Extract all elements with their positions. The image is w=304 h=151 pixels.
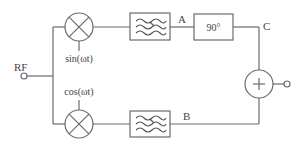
phase-shifter-label: 90° bbox=[207, 22, 221, 33]
filter-top bbox=[130, 13, 170, 40]
filter-bottom bbox=[130, 111, 170, 137]
rf-label: RF bbox=[14, 61, 27, 73]
node-a-label: A bbox=[178, 13, 186, 25]
image-reject-receiver-diagram: RF sin(ωt) cos(ωt) bbox=[0, 0, 304, 151]
rf-input: RF bbox=[14, 61, 53, 79]
mixer-top: sin(ωt) bbox=[65, 13, 93, 65]
lo-label-sin: sin(ωt) bbox=[65, 53, 93, 65]
mixer-bottom: cos(ωt) bbox=[64, 86, 93, 138]
summer bbox=[245, 70, 273, 98]
input-port-icon bbox=[21, 73, 27, 79]
lo-label-cos: cos(ωt) bbox=[64, 86, 93, 98]
node-c-label: C bbox=[263, 20, 270, 32]
node-b-label: B bbox=[183, 110, 190, 122]
output-port-icon bbox=[284, 81, 290, 87]
phase-shifter: 90° bbox=[194, 14, 233, 40]
